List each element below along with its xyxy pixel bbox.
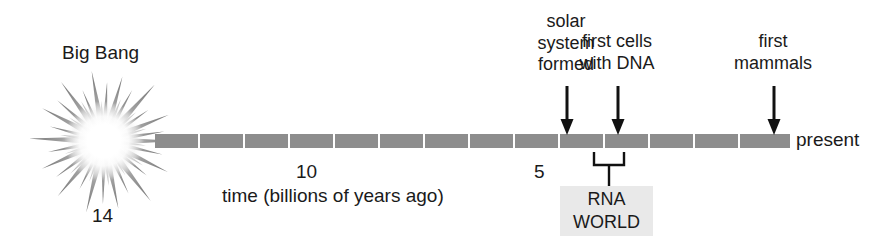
arrow-first-mammals <box>763 86 785 140</box>
tick-divider <box>378 134 380 148</box>
axis-caption: time (billions of years ago) <box>222 185 444 207</box>
axis-tick-label-5: 5 <box>534 161 545 183</box>
tick-divider <box>198 134 200 148</box>
arrow-solar-system-formed <box>556 86 578 140</box>
axis-tick-label-10: 10 <box>296 161 317 183</box>
timeline-start-age-label: 14 <box>92 205 113 227</box>
event-label-first-mammals: first mammals <box>722 31 824 74</box>
tick-divider <box>243 134 245 148</box>
timeline-bar <box>155 134 790 148</box>
tick-divider <box>693 134 695 148</box>
figure-canvas: Big Bang 14 10 5 time (billions of years… <box>0 0 891 243</box>
rna-world-line-2: WORLD <box>573 211 640 234</box>
arrow-first-cells-with-dna <box>607 86 629 140</box>
tick-divider <box>648 134 650 148</box>
tick-divider <box>333 134 335 148</box>
tick-divider <box>423 134 425 148</box>
big-bang-label: Big Bang <box>62 42 139 64</box>
rna-world-line-1: RNA <box>587 188 625 211</box>
tick-divider <box>468 134 470 148</box>
tick-divider <box>738 134 740 148</box>
tick-divider <box>288 134 290 148</box>
timeline-present-label: present <box>796 129 859 151</box>
tick-divider <box>513 134 515 148</box>
tick-divider <box>603 134 605 148</box>
event-label-first-cells-with-dna: first cells with DNA <box>566 31 668 74</box>
rna-world-box: RNA WORLD <box>560 186 653 236</box>
